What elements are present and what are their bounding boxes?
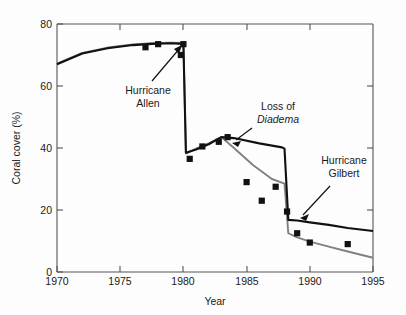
- data-point-marker: [345, 241, 351, 247]
- hurricane-allen-label-line2: Allen: [136, 97, 160, 109]
- x-tick-label-1990: 1990: [298, 275, 322, 287]
- data-point-marker: [199, 143, 205, 149]
- x-tick-label-1980: 1980: [171, 275, 195, 287]
- x-tick-label-1995: 1995: [361, 275, 385, 287]
- data-point-marker: [294, 230, 300, 236]
- y-axis-title: Coral cover (%): [10, 112, 22, 185]
- x-axis-title: Year: [204, 295, 226, 307]
- data-point-marker: [155, 41, 161, 47]
- y-tick-label-60: 60: [40, 80, 52, 92]
- data-point-marker: [307, 239, 313, 245]
- x-tick-label-1970: 1970: [45, 275, 69, 287]
- data-point-marker: [259, 198, 265, 204]
- data-point-marker: [142, 44, 148, 50]
- data-point-marker: [273, 184, 279, 190]
- data-point-marker: [216, 139, 222, 145]
- y-tick-label-80: 80: [40, 18, 52, 30]
- x-tick-label-1985: 1985: [235, 275, 259, 287]
- hurricane-gilbert-label-line2: Gilbert: [329, 167, 360, 179]
- data-point-marker: [187, 156, 193, 162]
- hurricane-allen-label-line1: Hurricane: [125, 84, 171, 96]
- chart-svg: 0 20 40 60 80 1970 1975 1980 1985 1990 1…: [0, 0, 406, 315]
- data-point-marker: [244, 179, 250, 185]
- data-point-marker: [225, 134, 231, 140]
- x-tick-label-1975: 1975: [108, 275, 132, 287]
- loss-of-diadema-label-line1: Loss of: [261, 100, 295, 112]
- coral-cover-figure: 0 20 40 60 80 1970 1975 1980 1985 1990 1…: [0, 0, 406, 315]
- hurricane-gilbert-label-line1: Hurricane: [321, 154, 367, 166]
- data-point-marker: [284, 208, 290, 214]
- loss-of-diadema-label-line2: Diadema: [257, 113, 299, 125]
- y-tick-label-20: 20: [40, 204, 52, 216]
- y-tick-label-40: 40: [40, 142, 52, 154]
